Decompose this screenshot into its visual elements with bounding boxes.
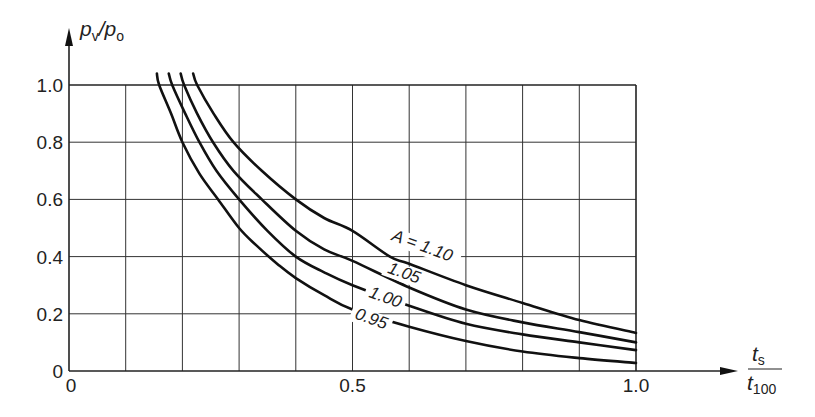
y-tick-label: 0.4 xyxy=(37,247,64,268)
x-tick-labels: 00.51.0 xyxy=(66,375,650,396)
pressure-ratio-chart: 00.20.40.60.81.0 00.51.0 A = 1.101.051.0… xyxy=(0,0,815,417)
y-tick-label: 0.2 xyxy=(37,304,63,325)
curve-0.95 xyxy=(157,74,636,363)
x-tick-label: 0 xyxy=(66,375,77,396)
y-tick-label: 0.8 xyxy=(37,132,63,153)
svg-text:0.95: 0.95 xyxy=(353,304,391,333)
curve-1.05 xyxy=(181,74,636,343)
svg-text:ts: ts xyxy=(752,342,765,368)
x-tick-label: 1.0 xyxy=(623,375,649,396)
svg-text:1.05: 1.05 xyxy=(385,258,423,287)
y-tick-label: 0 xyxy=(52,361,63,382)
y-tick-label: 1.0 xyxy=(37,75,63,96)
axes xyxy=(65,28,738,375)
curve-1.10 xyxy=(193,74,636,333)
y-axis-label: pv/po xyxy=(79,17,124,44)
y-tick-labels: 00.20.40.60.81.0 xyxy=(37,75,64,382)
svg-text:1.00: 1.00 xyxy=(367,283,405,312)
x-axis-label: ts t100 xyxy=(747,342,782,397)
y-axis-arrow-icon xyxy=(65,28,73,46)
x-tick-label: 0.5 xyxy=(339,375,365,396)
y-tick-label: 0.6 xyxy=(37,189,63,210)
svg-text:t100: t100 xyxy=(747,371,776,397)
curves xyxy=(157,74,636,363)
x-axis-arrow-icon xyxy=(720,367,738,375)
